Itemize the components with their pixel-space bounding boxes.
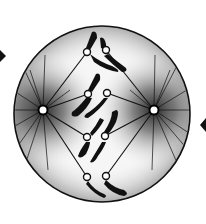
left-arrowhead-icon — [0, 50, 6, 62]
mitosis-diagram — [0, 0, 206, 224]
left-centrosome — [39, 106, 48, 115]
right-centrosome — [150, 106, 159, 115]
right-arrowhead-icon — [200, 118, 206, 132]
